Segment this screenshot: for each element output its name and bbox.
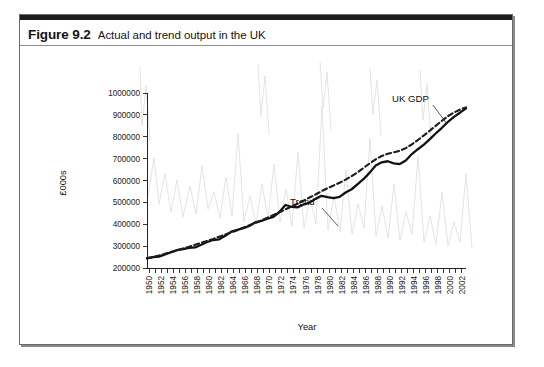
figure-top-rule [20, 15, 512, 20]
data-series-layer [147, 107, 466, 258]
y-tick-label: 800000 [113, 133, 141, 142]
x-tick-label: 1950 [145, 276, 154, 295]
x-tick-label: 1964 [229, 276, 238, 295]
x-tick-label: 1972 [277, 276, 286, 295]
line-chart: 1000000 900000 800000 700000 600000 5000… [20, 46, 514, 345]
x-tick-label: 1962 [217, 276, 226, 295]
x-tick-label: 1988 [374, 276, 383, 295]
x-tick-label: 1952 [157, 276, 166, 295]
series-line-trend [147, 107, 466, 258]
annotation-trend: Trend [290, 196, 338, 226]
x-tick-label: 1986 [362, 276, 371, 295]
chart-canvas: 1000000 900000 800000 700000 600000 5000… [20, 46, 512, 345]
annotation-label-uk-gdp: UK GDP [392, 93, 429, 104]
y-tick-label: 500000 [113, 198, 141, 207]
x-tick-label: 2000 [446, 276, 455, 295]
x-tick-label: 1960 [205, 276, 214, 295]
x-tick-label: 1994 [410, 276, 419, 295]
x-tick-label: 1992 [398, 276, 407, 295]
x-tick-label: 1996 [422, 276, 431, 295]
annotation-uk-gdp: UK GDP [392, 93, 447, 124]
y-tick-label: 700000 [113, 155, 141, 164]
x-tick-label: 1956 [181, 276, 190, 295]
y-axis-tick-labels: 1000000 900000 800000 700000 600000 5000… [108, 89, 140, 273]
y-axis-ticks [143, 93, 147, 268]
x-tick-label: 1998 [434, 276, 443, 295]
x-tick-label: 1966 [241, 276, 250, 295]
x-tick-label: 2002 [458, 276, 467, 295]
annotation-label-trend: Trend [290, 196, 315, 207]
y-tick-label: 300000 [113, 242, 141, 251]
figure-title: Actual and trend output in the UK [98, 29, 266, 41]
x-tick-label: 1958 [193, 276, 202, 295]
page-bleedthrough-artifact [140, 62, 472, 248]
x-tick-label: 1970 [265, 276, 274, 295]
figure-caption: Figure 9.2Actual and trend output in the… [28, 25, 266, 43]
x-tick-label: 1984 [350, 276, 359, 295]
series-line-uk-gdp [147, 108, 466, 258]
x-axis-ticks [149, 268, 462, 273]
axis-lines [147, 93, 466, 268]
x-tick-label: 1982 [338, 276, 347, 295]
x-tick-label: 1976 [302, 276, 311, 295]
x-tick-label: 1990 [386, 276, 395, 295]
y-tick-label: 600000 [113, 177, 141, 186]
x-tick-label: 1978 [314, 276, 323, 295]
x-tick-label: 1954 [169, 276, 178, 295]
y-tick-label: 1000000 [108, 89, 140, 98]
figure-number: Figure 9.2 [28, 27, 91, 42]
y-tick-label: 400000 [113, 220, 141, 229]
figure-frame: Figure 9.2Actual and trend output in the… [19, 14, 513, 345]
x-tick-label: 1980 [326, 276, 335, 295]
x-tick-label: 1968 [253, 276, 262, 295]
y-tick-label: 200000 [113, 264, 141, 273]
x-tick-label: 1974 [289, 276, 298, 295]
x-axis-title: Year [298, 322, 317, 332]
x-axis-tick-labels: 1950 1952 1954 1956 1958 1960 1962 1964 … [145, 276, 467, 295]
y-tick-label: 900000 [113, 111, 141, 120]
y-axis-title: £000s [58, 170, 68, 196]
